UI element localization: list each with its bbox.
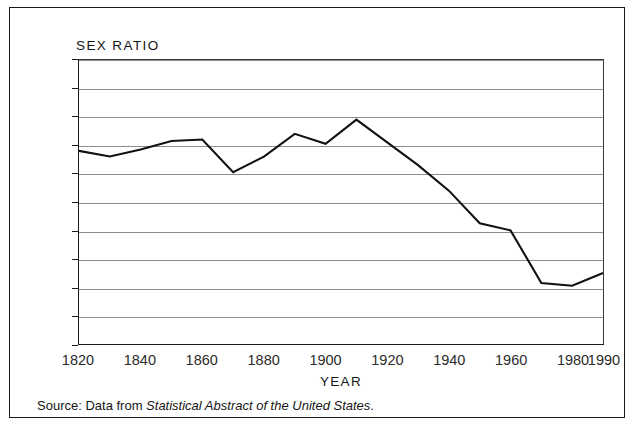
source-note-suffix: .	[370, 398, 374, 413]
x-tick-label: 1900	[309, 352, 341, 368]
x-tick-label: 1860	[186, 352, 218, 368]
y-tick-mark	[72, 202, 78, 203]
x-tick-label: 1940	[433, 352, 465, 368]
figure-container: SEX RATIO 9092949698100102104106108110 1…	[0, 0, 635, 428]
x-tick-label: 1960	[495, 352, 527, 368]
source-note-prefix: Source: Data from	[37, 398, 146, 413]
y-tick-mark	[72, 288, 78, 289]
chart-title: SEX RATIO	[76, 38, 160, 53]
x-tick-label: 1980	[557, 352, 589, 368]
y-tick-mark	[72, 231, 78, 232]
y-tick-mark	[72, 59, 78, 60]
y-tick-mark	[72, 173, 78, 174]
x-tick-label: 1920	[371, 352, 403, 368]
source-note: Source: Data from Statistical Abstract o…	[37, 398, 374, 413]
source-note-title: Statistical Abstract of the United State…	[146, 398, 370, 413]
y-tick-mark	[72, 259, 78, 260]
y-tick-mark	[72, 88, 78, 89]
y-tick-mark	[72, 345, 78, 346]
y-tick-mark	[72, 145, 78, 146]
y-tick-mark	[72, 116, 78, 117]
x-axis-title: YEAR	[320, 374, 362, 389]
x-tick-label: 1820	[62, 352, 94, 368]
data-series-line	[79, 60, 603, 344]
x-tick-label: 1840	[124, 352, 156, 368]
x-tick-label: 1990	[588, 352, 620, 368]
x-tick-label: 1880	[248, 352, 280, 368]
plot-area	[78, 59, 604, 345]
figure-frame: SEX RATIO 9092949698100102104106108110 1…	[9, 7, 625, 418]
y-tick-mark	[72, 316, 78, 317]
